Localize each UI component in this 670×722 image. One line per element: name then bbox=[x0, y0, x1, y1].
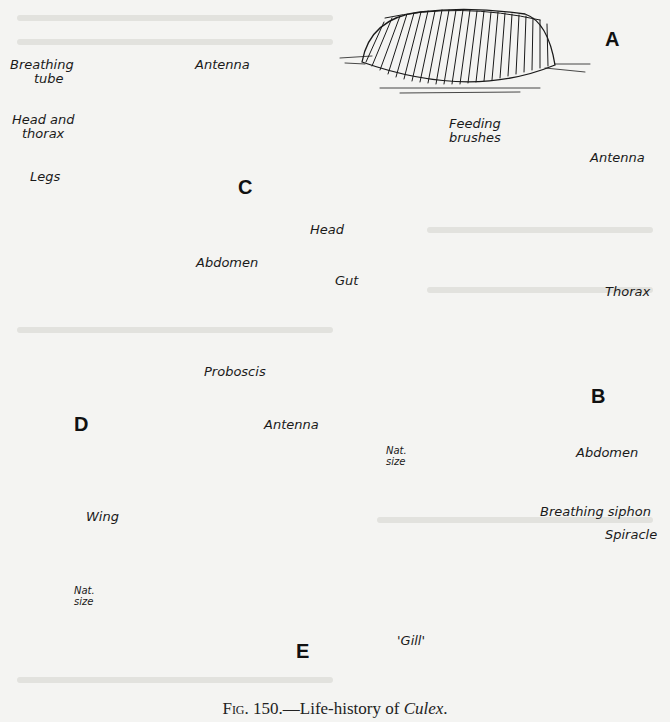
label-adult-antenna: Antenna bbox=[264, 418, 319, 432]
label-larva-abdomen: Abdomen bbox=[576, 446, 638, 460]
label-line: tube bbox=[10, 72, 74, 86]
label-line: Breathing bbox=[10, 58, 74, 72]
label-breathing-tube: Breathing tube bbox=[10, 58, 74, 86]
label-line: thorax bbox=[12, 127, 75, 141]
label-line: Nat. bbox=[74, 585, 95, 596]
label-line: Nat. bbox=[386, 445, 407, 456]
label-proboscis: Proboscis bbox=[204, 365, 266, 379]
figure-drawing bbox=[0, 0, 670, 722]
label-line: brushes bbox=[449, 131, 501, 145]
label-thorax: Thorax bbox=[605, 285, 650, 299]
egg-raft-drawing bbox=[340, 9, 590, 93]
label-legs: Legs bbox=[30, 170, 60, 184]
caption-genus: Culex bbox=[404, 699, 444, 718]
panel-letter-a: A bbox=[605, 28, 619, 51]
label-spiracle: Spiracle bbox=[605, 528, 657, 542]
label-wing: Wing bbox=[86, 510, 119, 524]
label-line: size bbox=[386, 456, 407, 467]
label-gut: Gut bbox=[335, 274, 358, 288]
label-head: Head bbox=[310, 223, 344, 237]
bleed-through-texture bbox=[20, 18, 650, 680]
label-head-and-thorax: Head and thorax bbox=[12, 113, 75, 141]
caption-figure-number: Fig. 150. bbox=[222, 699, 282, 718]
panel-letter-b: B bbox=[591, 385, 605, 408]
caption-period: . bbox=[443, 699, 447, 718]
label-feeding-brushes: Feeding brushes bbox=[449, 117, 501, 145]
label-line: Head and bbox=[12, 113, 75, 127]
scale-label-larva: Nat. size bbox=[386, 445, 407, 467]
label-gill: 'Gill' bbox=[397, 634, 425, 648]
label-line: Feeding bbox=[449, 117, 501, 131]
figure-caption: Fig. 150.—Life-history of Culex. bbox=[0, 699, 670, 719]
panel-letter-e: E bbox=[296, 640, 309, 663]
caption-text: —Life-history of bbox=[283, 699, 404, 718]
label-pupa-abdomen: Abdomen bbox=[196, 256, 258, 270]
label-breathing-siphon: Breathing siphon bbox=[540, 505, 651, 519]
panel-letter-d: D bbox=[74, 413, 88, 436]
label-line: size bbox=[74, 596, 95, 607]
panel-letter-c: C bbox=[238, 176, 252, 199]
label-pupa-antenna: Antenna bbox=[195, 58, 250, 72]
scale-label-adult: Nat. size bbox=[74, 585, 95, 607]
label-larva-antenna: Antenna bbox=[590, 151, 645, 165]
